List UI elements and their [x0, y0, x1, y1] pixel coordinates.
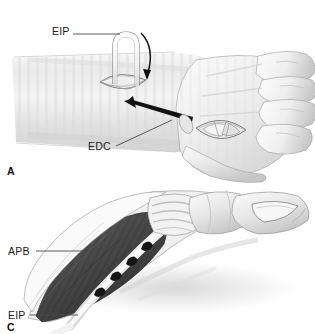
panel-a-illustration: [0, 0, 315, 334]
panel-c-group: [24, 190, 309, 334]
panel-label-c: C: [7, 322, 15, 333]
thumb-distal-with-nail: [232, 192, 309, 234]
label-edc: EDC: [88, 141, 111, 152]
label-apb: APB: [8, 246, 30, 257]
surgical-illustration-figure: EIP EDC A APB EIP C: [0, 0, 315, 334]
panel-a-group: [12, 32, 315, 182]
label-eip-top: EIP: [52, 26, 70, 37]
label-eip-bottom: EIP: [8, 310, 26, 321]
panel-label-a: A: [7, 166, 15, 177]
